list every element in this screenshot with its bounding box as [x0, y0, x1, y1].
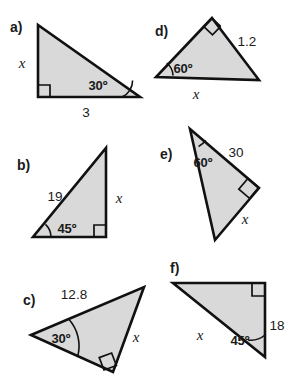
problem-f: f) 18 x 45º: [170, 260, 285, 357]
label-d-side-1-2: 1.2: [238, 34, 257, 49]
label-a-side-x: x: [18, 55, 26, 71]
label-e-side-30: 30: [228, 145, 243, 160]
problem-label-f: f): [170, 260, 179, 276]
label-b-angle-45: 45º: [57, 221, 76, 236]
label-a-side-3: 3: [82, 105, 90, 120]
problem-a: a) x 3 30º: [10, 19, 140, 120]
problem-label-a: a): [10, 19, 22, 35]
label-e-side-x: x: [241, 211, 249, 227]
label-a-angle-30: 30º: [88, 78, 107, 93]
label-d-side-x: x: [192, 86, 200, 102]
problem-label-c: c): [23, 292, 35, 308]
label-e-angle-60: 60º: [193, 155, 212, 170]
label-f-angle-45: 45º: [230, 333, 249, 348]
label-c-side-x: x: [132, 329, 140, 345]
label-f-side-x: x: [196, 327, 204, 343]
worksheet-canvas: a) x 3 30º d) 1.2 x 60º b) 19 x 45º e) 3…: [0, 0, 288, 380]
label-b-side-19: 19: [47, 189, 62, 204]
problem-e: e) 30 x 60º: [160, 129, 259, 240]
triangle-c-shape: [31, 287, 144, 372]
problem-label-d: d): [155, 23, 168, 39]
label-c-side-12-8: 12.8: [61, 287, 87, 302]
problem-label-b: b): [17, 157, 30, 173]
label-d-angle-60: 60º: [173, 61, 192, 76]
problem-c: c) 12.8 x 30º: [23, 287, 144, 372]
label-f-side-18: 18: [269, 318, 284, 333]
label-b-side-x: x: [115, 190, 123, 206]
problem-label-e: e): [160, 146, 172, 162]
label-c-angle-30: 30º: [51, 331, 70, 346]
problem-d: d) 1.2 x 60º: [155, 18, 259, 102]
problem-b: b) 19 x 45º: [17, 148, 123, 237]
